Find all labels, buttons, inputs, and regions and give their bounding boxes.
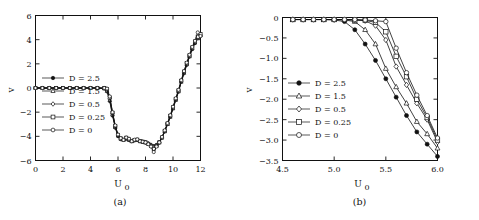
marker-filled-circle [297,81,302,86]
marker-open-circle [48,86,51,89]
marker-open-circle [152,150,155,153]
series-line [36,34,201,149]
marker-square [297,120,302,125]
marker-open-circle [111,111,114,114]
marker-filled-circle [51,76,54,79]
marker-diamond [394,64,398,69]
marker-filled-circle [415,130,419,134]
marker-filled-circle [394,95,398,99]
marker-square [51,115,55,119]
marker-filled-circle [384,77,388,81]
marker-open-circle [41,86,44,89]
y-tick-label: −2.0 [259,95,278,104]
y-tick-label: 4 [26,36,31,45]
marker-diamond [51,102,55,107]
marker-open-circle [108,95,111,98]
y-tick-label: −1.5 [259,75,278,84]
marker-open-circle [191,45,194,48]
x-tick-label: 0 [33,165,38,174]
y-tick-label: −2.5 [259,116,278,125]
panel-b-xlabel: U [354,179,362,189]
marker-open-circle [404,70,408,74]
marker-open-circle [114,124,117,127]
marker-open-circle [291,17,295,21]
marker-filled-circle [405,114,409,118]
legend-label: D = 0.25 [315,118,351,127]
y-tick-label: −1.0 [259,54,278,63]
marker-diamond [297,106,302,112]
legend-label: D = 2.5 [315,79,346,88]
panel-a-series [34,31,203,154]
x-tick-label: 4 [88,165,93,174]
marker-open-circle [435,136,439,140]
panel-b-xlabel-sub: 0 [365,183,370,192]
panel-a-ylabel: v [6,87,16,94]
x-tick-label: 5.5 [379,165,392,174]
marker-open-circle [425,113,429,117]
marker-open-circle [116,133,119,136]
figure-container: 024681012−6−4−20246 D = 2.5D = 1.5D = 0.… [0,0,479,220]
x-tick-label: 2 [60,165,65,174]
legend-label: D = 1.5 [69,87,100,96]
marker-open-circle [415,93,419,97]
marker-open-circle [180,79,183,82]
legend-label: D = 1.5 [315,92,346,101]
y-tick-label: 0 [273,14,278,23]
y-tick-label: 0 [26,84,31,93]
marker-triangle [394,84,399,88]
marker-open-circle [127,137,130,140]
panel-a-xlabel: U [114,179,122,189]
marker-open-circle [297,133,302,138]
marker-open-circle [149,145,152,148]
marker-filled-circle [425,142,429,146]
marker-open-circle [171,105,174,108]
y-tick-label: −4 [20,132,32,141]
marker-open-circle [342,17,346,21]
marker-open-circle [51,128,55,132]
marker-open-circle [373,19,377,23]
x-tick-label: 10 [168,165,178,174]
legend-label: D = 0 [69,126,92,135]
marker-triangle [296,93,302,98]
marker-open-circle [363,18,367,22]
marker-open-circle [163,129,166,132]
legend-label: D = 0 [315,131,338,140]
y-tick-label: −0.5 [259,34,278,43]
marker-square [394,54,398,58]
marker-filled-circle [353,28,357,32]
x-tick-label: 6.0 [431,165,444,174]
marker-open-circle [105,87,108,90]
marker-diamond [404,82,408,87]
marker-open-circle [34,86,37,89]
marker-open-circle [160,135,163,138]
marker-open-circle [196,31,199,34]
y-tick-label: −3.5 [259,157,278,166]
legend-label: D = 0.5 [315,105,346,114]
marker-triangle [414,119,419,123]
marker-open-circle [182,69,185,72]
panel-b-series [290,17,440,158]
panel-a-legend: D = 2.5D = 1.5D = 0.5D = 0.25D = 0 [42,74,105,135]
marker-filled-circle [374,58,378,62]
marker-triangle [363,27,368,31]
x-tick-label: 6 [115,165,120,174]
y-tick-label: 2 [26,60,31,69]
marker-open-circle [155,145,158,148]
marker-open-circle [55,86,58,89]
marker-open-circle [185,61,188,64]
legend-label: D = 2.5 [69,74,100,83]
marker-open-circle [147,143,150,146]
panel-a-xlabel-sub: 0 [125,183,130,192]
marker-filled-circle [363,42,367,46]
panel-a-plot: 024681012−6−4−20246 D = 2.5D = 1.5D = 0.… [0,0,240,200]
marker-open-circle [311,17,315,21]
marker-open-circle [166,121,169,124]
marker-open-circle [169,114,172,117]
marker-triangle [383,66,388,70]
marker-open-circle [193,39,196,42]
marker-filled-circle [436,154,440,158]
marker-open-circle [384,19,388,23]
x-tick-label: 8 [143,165,148,174]
marker-open-circle [301,17,305,21]
y-tick-label: −2 [20,108,32,117]
